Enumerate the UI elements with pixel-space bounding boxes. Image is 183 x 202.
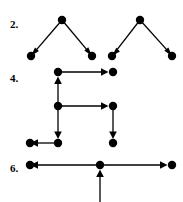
- arrowhead-p6-right: [160, 161, 168, 169]
- problem-6-group: 6.: [10, 161, 176, 202]
- arrowhead-p4-middle-right: [101, 102, 109, 110]
- vertex-p4-top-left: [54, 68, 62, 76]
- problem-2-label: 2.: [10, 18, 19, 30]
- arrowhead-p4-right-down: [109, 132, 117, 140]
- arrowhead-p4-top-right: [101, 68, 109, 76]
- edge-p2-g1-right: [62, 20, 88, 51]
- edge-p2-g2-left: [116, 20, 140, 51]
- exercise-figure-page: 2. 4.: [0, 0, 183, 202]
- directed-graph-figure: 2. 4.: [0, 0, 183, 202]
- vertex-p2-g1-apex: [58, 16, 66, 24]
- problem-6-label: 6.: [10, 162, 19, 174]
- vertex-p2-g2-leaf-left: [108, 52, 116, 60]
- vertex-p4-top-right: [109, 68, 117, 76]
- arrowhead-p4-middle-down: [54, 132, 62, 140]
- vertex-p4-bottom-left: [54, 139, 62, 147]
- arrowhead-p6-up: [96, 170, 104, 178]
- problem-4-group: 4.: [10, 68, 117, 147]
- vertex-p6-center: [96, 161, 104, 169]
- problem-4-label: 4.: [10, 72, 19, 84]
- vertex-p2-g2-leaf-right: [168, 52, 176, 60]
- problem-2-group: 2.: [10, 16, 176, 60]
- problem-2-vertices: [27, 16, 176, 60]
- vertex-p4-middle-right: [109, 102, 117, 110]
- edge-p2-g2-right: [140, 20, 168, 51]
- vertex-p2-g1-leaf-left: [27, 52, 35, 60]
- vertex-p6-right: [168, 161, 176, 169]
- vertex-p6-left: [26, 161, 34, 169]
- vertex-p4-middle-left: [54, 102, 62, 110]
- edge-p2-g1-left: [36, 20, 63, 51]
- arrowhead-p4-middle-up: [54, 77, 62, 85]
- vertex-p2-g1-leaf-right: [88, 52, 96, 60]
- vertex-p4-bottom-right: [109, 139, 117, 147]
- vertex-p4-bottom-far-left: [26, 139, 34, 147]
- problem-2-edges: [31, 20, 172, 56]
- vertex-p2-g2-apex: [136, 16, 144, 24]
- problem-4-edges: [31, 68, 117, 147]
